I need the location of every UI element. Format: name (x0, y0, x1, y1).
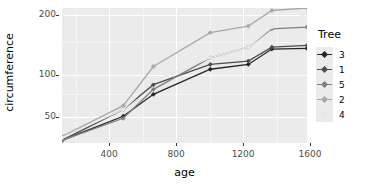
legend-item-label: 2 (339, 95, 345, 105)
x-tick-label: 800 (168, 149, 185, 159)
legend-key-point (321, 111, 328, 118)
series-point (305, 25, 307, 30)
x-axis-ticks: 40080012001600 (62, 143, 307, 165)
legend-item-3[interactable]: 3 (316, 47, 364, 62)
y-tick-label: 200 (20, 10, 56, 19)
x-tick-mark (310, 143, 311, 146)
series-layer (62, 8, 307, 143)
legend-key-icon (316, 47, 333, 62)
x-tick-mark (243, 143, 244, 146)
legend-item-label: 3 (339, 50, 345, 60)
legend-item-1[interactable]: 1 (316, 62, 364, 77)
legend-item-label: 4 (339, 110, 345, 120)
series-3 (62, 46, 307, 143)
legend-item-4[interactable]: 4 (316, 107, 364, 122)
legend-item-2[interactable]: 2 (316, 92, 364, 107)
series-5 (62, 25, 307, 143)
x-tick-label: 1200 (232, 149, 255, 159)
y-tick-mark (56, 75, 59, 76)
legend-key-point (321, 96, 328, 103)
x-tick-mark (176, 143, 177, 146)
x-tick-mark (109, 143, 110, 146)
y-axis-title: circumference (2, 0, 16, 145)
legend: Tree 31524 (316, 28, 364, 122)
legend-key-point (321, 51, 328, 58)
legend-item-label: 5 (339, 80, 345, 90)
y-tick-mark (56, 15, 59, 16)
chart-figure: circumference 50100200 40080012001600 ag… (0, 0, 367, 186)
y-axis-ticks: 50100200 (18, 0, 56, 145)
legend-key-icon (316, 107, 333, 122)
plot-panel (62, 8, 307, 143)
legend-item-label: 1 (339, 65, 345, 75)
series-point (208, 67, 213, 72)
series-point (208, 55, 213, 60)
x-axis-title: age (62, 166, 307, 179)
series-point (208, 62, 213, 67)
x-tick-label: 1600 (299, 149, 322, 159)
legend-key-point (321, 66, 328, 73)
legend-title: Tree (318, 28, 364, 41)
legend-key-icon (316, 62, 333, 77)
y-axis-title-label: circumference (3, 33, 16, 112)
y-tick-mark (56, 117, 59, 118)
series-point (305, 11, 307, 16)
y-tick-label: 100 (20, 70, 56, 79)
x-tick-label: 400 (101, 149, 118, 159)
legend-key-icon (316, 92, 333, 107)
legend-item-5[interactable]: 5 (316, 77, 364, 92)
y-tick-label: 50 (20, 112, 56, 121)
legend-items: 31524 (316, 47, 364, 122)
legend-key-icon (316, 77, 333, 92)
series-line (62, 14, 307, 138)
series-line (62, 27, 307, 140)
series-point (305, 43, 307, 48)
legend-key-point (321, 81, 328, 88)
